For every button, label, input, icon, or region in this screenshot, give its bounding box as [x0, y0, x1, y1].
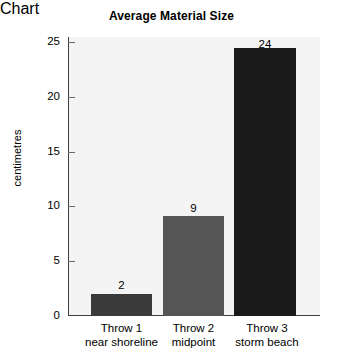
x-label-throw-3-line1: Throw 3 [228, 321, 306, 335]
x-label-throw-1-line1: Throw 1 [81, 321, 162, 335]
x-label-throw-3-line2: storm beach [228, 335, 306, 349]
x-label-throw-2-line1: Throw 2 [156, 321, 231, 335]
bar-throw-1[interactable] [91, 294, 152, 316]
x-label-throw-2-line2: midpoint [156, 335, 231, 349]
bar-throw-3[interactable] [234, 48, 296, 316]
bar-value-throw-3: 24 [234, 39, 296, 51]
y-tick-label-25: 25 [26, 36, 60, 48]
chart-title: Average Material Size [0, 9, 343, 23]
y-tick-label-0: 0 [26, 310, 60, 322]
x-label-throw-1: Throw 1 near shoreline [81, 321, 162, 349]
x-label-throw-1-line2: near shoreline [81, 335, 162, 349]
y-tick-label-20: 20 [26, 91, 60, 103]
bar-value-throw-2: 9 [163, 203, 224, 215]
bar-throw-2[interactable] [163, 216, 224, 316]
y-tick-label-15: 15 [26, 146, 60, 158]
bar-value-throw-1: 2 [91, 280, 152, 292]
y-tick-label-10: 10 [26, 200, 60, 212]
x-label-throw-3: Throw 3 storm beach [228, 321, 306, 349]
y-axis-title: centimetres [11, 108, 23, 208]
x-label-throw-2: Throw 2 midpoint [156, 321, 231, 349]
y-tick-label-5: 5 [26, 255, 60, 267]
